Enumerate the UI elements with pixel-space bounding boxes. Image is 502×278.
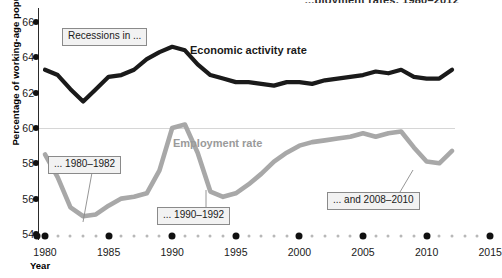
x-minor-dot-2014 bbox=[476, 235, 479, 238]
annotation-recession-1980-1982: ... 1980–1982 bbox=[48, 156, 121, 174]
x-tick-label-2015: 2015 bbox=[479, 246, 502, 258]
series-label-employment-rate: Employment rate bbox=[173, 137, 262, 149]
annotation-recession-2008-2010: ... and 2008–2010 bbox=[327, 192, 420, 210]
annotation-recession-1990-1992: ... 1990–1992 bbox=[157, 207, 230, 225]
leader-2008-2010 bbox=[400, 170, 413, 192]
x-minor-dot-2013 bbox=[463, 235, 466, 238]
x-tick-dot-2015 bbox=[487, 233, 494, 240]
annotation-recessions: Recessions in ... bbox=[62, 28, 147, 46]
series-label-economic-activity-rate: Economic activity rate bbox=[190, 44, 307, 56]
